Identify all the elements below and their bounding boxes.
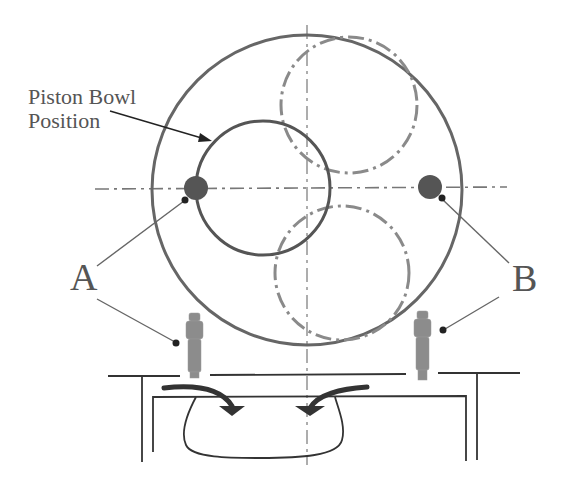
injector-b-point bbox=[418, 175, 442, 199]
cylinder-head bbox=[108, 373, 520, 376]
valve-lower-circle bbox=[275, 206, 409, 340]
leader-b-bottom bbox=[445, 297, 499, 329]
leader-dot-icon bbox=[439, 195, 446, 202]
flow-arrow-left-head-icon bbox=[219, 406, 245, 416]
cylinder-diagram: Piston Bowl Position A B bbox=[0, 0, 565, 483]
leader-dot-icon bbox=[173, 340, 180, 347]
leader-a-top bbox=[97, 201, 184, 266]
flow-arrow-right-icon bbox=[310, 387, 367, 408]
horizontal-centerline bbox=[95, 187, 507, 189]
injector-b-icon bbox=[414, 311, 431, 380]
bowl-label-arrow bbox=[110, 111, 205, 139]
valve-upper-circle bbox=[281, 37, 417, 173]
label-a: A bbox=[70, 256, 98, 298]
leader-b-top bbox=[442, 199, 509, 263]
bowl-label-line1: Piston Bowl bbox=[28, 84, 136, 109]
label-b: B bbox=[512, 257, 537, 299]
leader-dot-icon bbox=[440, 327, 447, 334]
injector-a-point bbox=[184, 176, 208, 200]
leader-a-bottom bbox=[97, 299, 175, 342]
injector-a-icon bbox=[186, 313, 203, 378]
bowl-label-line2: Position bbox=[28, 108, 100, 133]
arrowhead-icon bbox=[198, 133, 212, 142]
flow-arrow-right-head-icon bbox=[295, 406, 325, 416]
leader-dot-icon bbox=[182, 197, 189, 204]
